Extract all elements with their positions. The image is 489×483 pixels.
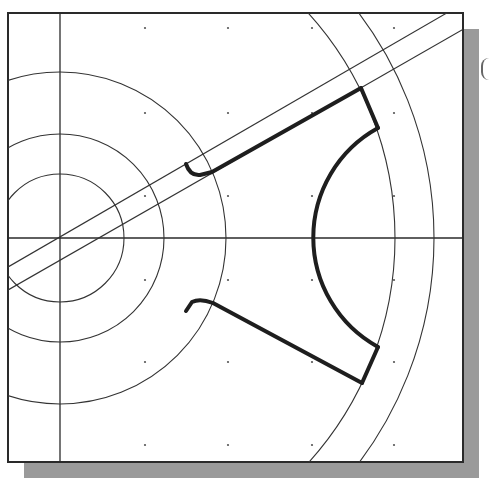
grid-dot [144, 361, 146, 363]
grid-dot [144, 279, 146, 281]
grid-dot [227, 27, 229, 29]
grid-dot [227, 444, 229, 446]
grid-dot [393, 361, 395, 363]
grid-dot [311, 444, 313, 446]
grid-dot [393, 444, 395, 446]
grid-dot [393, 112, 395, 114]
grid-dot [144, 195, 146, 197]
grid-dot [311, 195, 313, 197]
grid-dot [227, 361, 229, 363]
grid-dot [393, 279, 395, 281]
grid-dot [393, 195, 395, 197]
grid-dot [227, 195, 229, 197]
grid-dot [311, 361, 313, 363]
cropped-edge-glyph [481, 58, 489, 80]
grid-dot [227, 279, 229, 281]
grid-dot [393, 27, 395, 29]
grid-dot [311, 27, 313, 29]
grid-dot [144, 27, 146, 29]
grid-dot [227, 112, 229, 114]
grid-dot [311, 279, 313, 281]
grid-dot [144, 112, 146, 114]
grid-dot [144, 444, 146, 446]
